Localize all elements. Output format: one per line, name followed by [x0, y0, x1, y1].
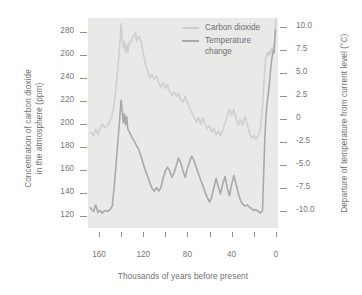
legend-label-carbon-dioxide: Carbon dioxide [205, 22, 260, 34]
y-axis-right-tick-label: 5.0 [296, 67, 336, 76]
chart-legend: Carbon dioxide Temperature change [182, 22, 260, 59]
y-axis-left-tick-label: 120 [34, 210, 74, 219]
y-axis-left-tick-mark [80, 170, 87, 171]
chart-figure: Concentration of carbon dioxide in the a… [0, 0, 362, 295]
y-axis-right-tick-label: 0 [296, 113, 336, 122]
y-axis-right-tick-label: 10.0 [296, 21, 336, 30]
x-axis-tick-label: 80 [167, 250, 207, 259]
y-axis-left-title-line2: in the atmosphere (ppm) [34, 29, 45, 229]
y-axis-left-tick-mark [80, 124, 87, 125]
y-axis-right-tick-mark [280, 119, 287, 120]
x-axis-tick-label: 160 [79, 250, 119, 259]
y-axis-left-title-line1: Concentration of carbon dioxide [24, 69, 33, 188]
y-axis-left-title: Concentration of carbon dioxide in the a… [24, 29, 45, 229]
legend-label-temperature-change: Temperature change [205, 35, 251, 58]
y-axis-right-tick-label: -2.5 [296, 136, 336, 145]
y-axis-left-tick-label: 280 [34, 26, 74, 35]
y-axis-left-tick-label: 200 [34, 118, 74, 127]
legend-swatch-carbon-dioxide [182, 27, 199, 29]
y-axis-left-tick-mark [80, 55, 87, 56]
y-axis-right-tick-mark [280, 142, 287, 143]
y-axis-right-tick-mark [280, 50, 287, 51]
y-axis-right-tick-mark [280, 27, 287, 28]
y-axis-left-tick-label: 140 [34, 187, 74, 196]
x-axis-tick-label: 0 [256, 250, 296, 259]
x-axis-tick-mark [276, 232, 277, 237]
y-axis-right-tick-label: 7.5 [296, 44, 336, 53]
legend-item-carbon-dioxide: Carbon dioxide [182, 22, 260, 34]
y-axis-left-tick-mark [80, 147, 87, 148]
x-axis-tick-mark [143, 232, 144, 237]
x-axis-tick-label: 120 [123, 250, 163, 259]
x-axis-tick-mark [232, 232, 233, 237]
legend-item-temperature-change: Temperature change [182, 35, 260, 58]
y-axis-left-tick-mark [80, 193, 87, 194]
y-axis-left-tick-mark [80, 101, 87, 102]
x-axis-tick-label: 40 [212, 250, 252, 259]
y-axis-right-tick-mark [280, 96, 287, 97]
legend-swatch-temperature-change [182, 40, 199, 42]
x-axis-tick-mark [210, 232, 211, 237]
x-axis-tick-mark [187, 232, 188, 237]
y-axis-right-tick-mark [280, 188, 287, 189]
y-axis-right-tick-label: -7.5 [296, 182, 336, 191]
y-axis-left-tick-mark [80, 216, 87, 217]
y-axis-left-tick-mark [80, 78, 87, 79]
y-axis-right-title: Departure of temperature from current le… [340, 21, 351, 226]
y-axis-left-tick-label: 160 [34, 164, 74, 173]
y-axis-right-tick-label: 2.5 [296, 90, 336, 99]
y-axis-right-tick-mark [280, 211, 287, 212]
x-axis-title: Thousands of years before present [88, 272, 278, 283]
y-axis-left-tick-label: 180 [34, 141, 74, 150]
y-axis-left-tick-mark [80, 32, 87, 33]
y-axis-left-tick-label: 260 [34, 49, 74, 58]
y-axis-right-tick-mark [280, 73, 287, 74]
x-axis-tick-mark [121, 232, 122, 237]
y-axis-right-tick-label: -10.0 [296, 205, 336, 214]
x-axis-tick-mark [99, 232, 100, 237]
y-axis-right-tick-mark [280, 165, 287, 166]
y-axis-right-tick-label: -5.0 [296, 159, 336, 168]
y-axis-left-tick-label: 220 [34, 95, 74, 104]
x-axis-tick-mark [254, 232, 255, 237]
x-axis-tick-mark [165, 232, 166, 237]
y-axis-left-tick-label: 240 [34, 72, 74, 81]
